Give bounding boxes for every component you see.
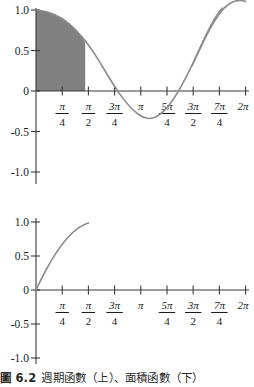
- x-label-bottom-2-num: π: [86, 299, 92, 311]
- chart-area-function: 1.0 0.5 0 -0.5 -1.0 π 4 π 2 3π: [0, 198, 254, 373]
- figure-caption: 圖 6.2週期函數（上）、面積函數（下）: [0, 370, 254, 387]
- y-tick-labels-bottom: 1.0 0.5 0 -0.5 -1.0: [11, 216, 29, 364]
- x-label-bottom-5-den: 4: [164, 315, 170, 327]
- x-label-6-den: 2: [190, 116, 196, 128]
- x-label-1-den: 4: [59, 116, 65, 128]
- y-label-1: 1.0: [15, 4, 30, 16]
- x-label-bottom-7-den: 4: [217, 315, 223, 327]
- x-label-1-num: π: [59, 100, 65, 112]
- x-label-4-whole: π: [138, 100, 144, 112]
- x-label-3-den: 4: [112, 116, 118, 128]
- y-label-bottom-3: 0: [23, 284, 29, 296]
- x-label-bottom-2-den: 2: [86, 315, 92, 327]
- figure-caption-text: 週期函數（上）、面積函數（下）: [41, 371, 203, 385]
- figure-caption-label: 圖 6.2: [0, 371, 36, 385]
- shaded-area-region: [36, 10, 85, 91]
- y-label-3: 0: [23, 85, 29, 97]
- x-label-bottom-3-num: 3π: [108, 299, 121, 311]
- cosine-curve-tail: [192, 0, 246, 66]
- x-tick-labels: π 4 π 2 3π 4 π 5π 4 3π 2 7π 4 2π: [56, 100, 249, 128]
- x-label-7-num: 7π: [214, 100, 226, 112]
- y-label-bottom-4: -0.5: [11, 318, 29, 330]
- x-label-5-den: 4: [164, 116, 170, 128]
- x-label-bottom-3-den: 4: [112, 315, 118, 327]
- x-label-bottom-5-num: 5π: [161, 299, 173, 311]
- x-label-2-den: 2: [86, 116, 92, 128]
- x-tick-labels-bottom: π 4 π 2 3π 4 π 5π 4 3π 2 7π 4 2π: [56, 299, 249, 327]
- x-label-7-den: 4: [217, 116, 223, 128]
- x-label-bottom-8-whole: 2π: [237, 299, 249, 311]
- x-label-bottom-6-den: 2: [190, 315, 196, 327]
- x-label-bottom-6-num: 3π: [187, 299, 200, 311]
- x-label-bottom-1-num: π: [59, 299, 65, 311]
- x-label-bottom-1-den: 4: [59, 315, 65, 327]
- chart-periodic-function: 1.0 0.5 0 -0.5 -1.0 π 4 π 2 3π: [0, 0, 254, 195]
- x-label-2-num: π: [86, 100, 92, 112]
- x-label-6-num: 3π: [187, 100, 200, 112]
- y-label-bottom-1: 1.0: [15, 216, 30, 228]
- x-label-bottom-4-whole: π: [138, 299, 144, 311]
- y-label-2: 0.5: [15, 45, 30, 57]
- x-label-bottom-7-num: 7π: [214, 299, 226, 311]
- figure-container: 1.0 0.5 0 -0.5 -1.0 π 4 π 2 3π: [0, 0, 254, 387]
- x-label-8-whole: 2π: [237, 100, 249, 112]
- x-label-3-num: 3π: [108, 100, 121, 112]
- y-label-bottom-5: -1.0: [11, 352, 29, 364]
- y-tick-labels: 1.0 0.5 0 -0.5 -1.0: [11, 4, 29, 178]
- y-label-4: -0.5: [11, 126, 29, 138]
- y-label-5: -1.0: [11, 166, 29, 178]
- area-function-curve: [36, 223, 88, 290]
- y-label-bottom-2: 0.5: [15, 250, 30, 262]
